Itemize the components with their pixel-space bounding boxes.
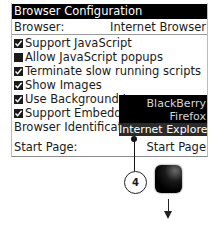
option-show-images[interactable]: Show Images (14, 78, 206, 92)
checkbox-checked-icon[interactable] (14, 39, 23, 48)
start-page-label: Start Page: (14, 140, 77, 154)
option-label: Show Images (25, 78, 102, 92)
browser-label: Browser: (14, 20, 64, 34)
checkbox-checked-icon[interactable] (14, 67, 23, 76)
option-terminate-slow-scripts[interactable]: Terminate slow running scripts (14, 64, 206, 78)
option-label: Terminate slow running scripts (25, 64, 201, 78)
down-arrow-head-icon (164, 211, 172, 219)
dropdown-option-firefox[interactable]: Firefox (170, 110, 206, 123)
start-page-field[interactable]: Start Page: Start Page (14, 140, 206, 154)
checkbox-checked-icon[interactable] (14, 81, 23, 90)
screen-title: Browser Configuration (12, 4, 207, 19)
start-page-value[interactable]: Start Page (146, 140, 206, 154)
option-support-javascript[interactable]: Support JavaScript (14, 36, 206, 50)
divider (12, 34, 207, 35)
option-allow-javascript-popups[interactable]: Allow JavaScript popups (14, 50, 206, 64)
checkbox-checked-icon[interactable] (14, 109, 23, 118)
dropdown-option-internet-explorer[interactable]: Internet Explorer (119, 123, 207, 136)
option-label: Support JavaScript (25, 36, 132, 50)
browser-value[interactable]: Internet Browser (110, 20, 206, 34)
callout-number-badge: 4 (124, 171, 147, 194)
trackpad-key-icon (155, 165, 182, 193)
browser-field[interactable]: Browser: Internet Browser (14, 20, 206, 34)
browser-identification-dropdown[interactable]: BlackBerry Firefox Internet Explorer (119, 95, 207, 136)
option-label: Allow JavaScript popups (25, 50, 163, 64)
callout-leader-line (134, 139, 135, 171)
checkbox-unchecked-icon[interactable] (14, 53, 23, 62)
checkbox-checked-icon[interactable] (14, 95, 23, 104)
dropdown-option-blackberry[interactable]: BlackBerry (147, 97, 206, 110)
browser-configuration-screen: Browser Configuration Browser: Internet … (11, 3, 208, 157)
